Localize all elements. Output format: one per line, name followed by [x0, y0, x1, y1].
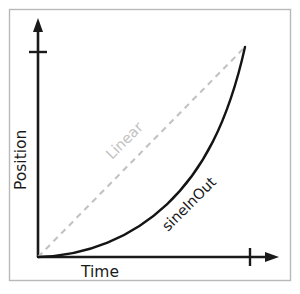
x-axis-title: Time	[80, 263, 119, 281]
y-axis-title: Position	[12, 130, 30, 190]
easing-curve-figure: Time Position Linear sineInOut	[0, 0, 300, 294]
figure-border	[10, 10, 291, 281]
chart-canvas: Time Position Linear sineInOut	[0, 0, 300, 294]
x-axis-arrow-icon	[265, 252, 279, 262]
linear-series-label: Linear	[103, 119, 146, 162]
y-axis-arrow-icon	[33, 18, 43, 32]
